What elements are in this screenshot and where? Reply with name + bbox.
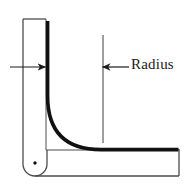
center-point-marker (33, 161, 36, 164)
diagram-canvas: Radius (0, 0, 190, 194)
bend-radius-figure (0, 0, 190, 194)
vertical-leg-left-edge (23, 19, 47, 176)
radius-label: Radius (131, 56, 174, 73)
inner-radius-curve (48, 21, 179, 150)
